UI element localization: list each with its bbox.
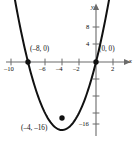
x-tick-label--6: –6: [39, 66, 46, 73]
annotation-origin: (0, 0): [99, 46, 115, 53]
y-tick-label-8: 8: [86, 24, 89, 31]
x-tick-label--4: –4: [56, 66, 63, 73]
y-axis-label: y: [91, 4, 94, 10]
x-axis-label: x: [129, 58, 132, 64]
x-tick-label--2: –2: [73, 66, 80, 73]
y-tick-label-4: 4: [86, 41, 89, 48]
x-tick-label-2: 2: [111, 66, 114, 73]
annotation-x-intercept-left: (–8, 0): [30, 46, 49, 53]
x-tick-label--10: –10: [4, 66, 14, 73]
y-tick-label--16: –16: [79, 121, 89, 128]
point-marker-x-intercept: [25, 59, 30, 64]
point-marker-origin: [93, 59, 98, 64]
parabola-graph-figure: –10 –6 –4 –2 2 8 4 –16 y x (–8, 0) (0, 0…: [0, 0, 135, 144]
annotation-vertex: (–4, –16): [21, 125, 47, 132]
graph-canvas: [0, 0, 135, 144]
point-marker-vertex: [59, 115, 64, 120]
